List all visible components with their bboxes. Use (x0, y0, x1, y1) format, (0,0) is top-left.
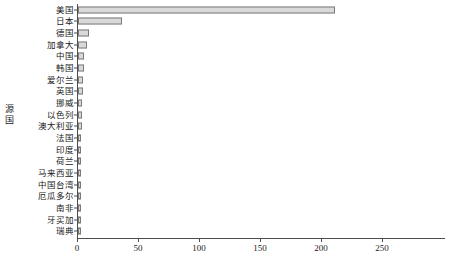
y-axis-tick (74, 68, 77, 69)
bar (78, 146, 81, 153)
bar (78, 111, 82, 118)
plot-area: 美国日本德国加拿大中国韩国爱尔兰英国挪威以色列澳大利亚法国印度荷兰马来西亚中国台… (77, 4, 382, 237)
x-axis-tick-label: 150 (245, 243, 275, 254)
category-label: 爱尔兰 (47, 75, 74, 84)
x-axis-tick (260, 239, 261, 242)
category-label: 中国 (56, 52, 74, 61)
bar (78, 41, 87, 48)
y-axis-tick (74, 21, 77, 22)
x-axis-tick (77, 239, 78, 242)
x-axis-tick (321, 239, 322, 242)
bar (78, 18, 122, 25)
category-label: 德国 (56, 29, 74, 38)
bar-row: 韩国 (77, 62, 382, 74)
bar-chart: 源 国 美国日本德国加拿大中国韩国爱尔兰英国挪威以色列澳大利亚法国印度荷兰马来西… (0, 0, 451, 267)
y-axis-tick (74, 91, 77, 92)
bar (78, 204, 81, 211)
bar-row: 日本 (77, 16, 382, 28)
y-axis-tick (74, 126, 77, 127)
bar (78, 169, 81, 176)
y-axis-tick (74, 56, 77, 57)
bar-row: 牙买加 (77, 214, 382, 226)
category-label: 英国 (56, 87, 74, 96)
bar (78, 181, 81, 188)
bar-row: 中国 (77, 51, 382, 63)
bar-row: 荷兰 (77, 155, 382, 167)
bar (78, 193, 81, 200)
category-label: 马来西亚 (38, 168, 74, 177)
y-axis-tick (74, 114, 77, 115)
y-axis-title: 源 国 (2, 104, 16, 126)
category-label: 牙买加 (47, 215, 74, 224)
bar-row: 加拿大 (77, 39, 382, 51)
y-axis-tick (74, 9, 77, 10)
x-axis-tick (199, 239, 200, 242)
category-label: 韩国 (56, 64, 74, 73)
x-axis-tick-label: 250 (367, 243, 397, 254)
category-label: 以色列 (47, 110, 74, 119)
y-axis-tick (74, 196, 77, 197)
category-label: 厄瓜多尔 (38, 192, 74, 201)
bar (78, 216, 81, 223)
bar (78, 76, 83, 83)
bar-row: 南非 (77, 202, 382, 214)
bar-row: 美国 (77, 4, 382, 16)
bar (78, 88, 83, 95)
y-axis-tick (74, 184, 77, 185)
category-label: 日本 (56, 17, 74, 26)
x-axis-line (77, 238, 445, 239)
x-axis-tick-label: 50 (123, 243, 153, 254)
bar-row: 法国 (77, 132, 382, 144)
bar (78, 158, 81, 165)
y-axis-tick (74, 172, 77, 173)
bar-row: 马来西亚 (77, 167, 382, 179)
x-axis-tick-label: 0 (62, 243, 92, 254)
bar-row: 澳大利亚 (77, 121, 382, 133)
bar (78, 30, 89, 37)
y-axis-tick (74, 219, 77, 220)
category-label: 法国 (56, 133, 74, 142)
category-label: 中国台湾 (38, 180, 74, 189)
bar (78, 123, 82, 130)
category-label: 加拿大 (47, 40, 74, 49)
y-axis-tick (74, 231, 77, 232)
category-label: 瑞典 (56, 227, 74, 236)
bar (78, 100, 82, 107)
bar-row: 印度 (77, 144, 382, 156)
category-label: 荷兰 (56, 157, 74, 166)
bar (78, 134, 81, 141)
bar-row: 挪威 (77, 97, 382, 109)
x-axis-tick (138, 239, 139, 242)
x-axis-tick-label: 200 (306, 243, 336, 254)
bar (78, 228, 81, 235)
y-axis-title-char-1: 源 (2, 104, 16, 115)
bar-row: 德国 (77, 27, 382, 39)
y-axis-tick (74, 137, 77, 138)
y-axis-tick (74, 161, 77, 162)
y-axis-tick (74, 149, 77, 150)
y-axis-tick (74, 33, 77, 34)
x-axis-tick (382, 239, 383, 242)
category-label: 印度 (56, 145, 74, 154)
category-label: 美国 (56, 5, 74, 14)
y-axis-tick (74, 207, 77, 208)
x-axis-tick-label: 100 (184, 243, 214, 254)
bar (78, 65, 84, 72)
bar-row: 厄瓜多尔 (77, 190, 382, 202)
y-axis-tick (74, 44, 77, 45)
y-axis-tick (74, 79, 77, 80)
category-label: 南非 (56, 203, 74, 212)
bar (78, 6, 335, 13)
y-axis-title-char-2: 国 (2, 115, 16, 126)
category-label: 澳大利亚 (38, 122, 74, 131)
bar (78, 53, 84, 60)
bar-row: 爱尔兰 (77, 74, 382, 86)
bar-row: 英国 (77, 86, 382, 98)
bar-row: 瑞典 (77, 225, 382, 237)
bar-row: 以色列 (77, 109, 382, 121)
y-axis-tick (74, 103, 77, 104)
bar-row: 中国台湾 (77, 179, 382, 191)
category-label: 挪威 (56, 99, 74, 108)
